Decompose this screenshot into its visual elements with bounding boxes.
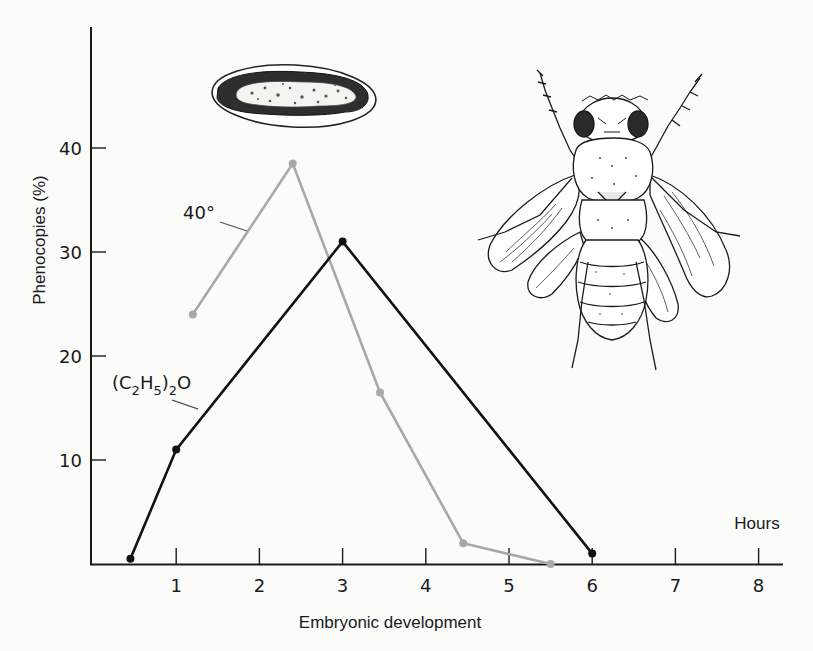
label-leader-line <box>172 400 198 409</box>
y-axis-label: Phenocopies (%) <box>30 175 49 304</box>
data-point <box>547 560 555 568</box>
x-tick-label: 4 <box>420 575 431 596</box>
data-point <box>588 550 596 558</box>
data-point <box>189 310 197 318</box>
x-tick-label: 1 <box>170 575 181 596</box>
data-point <box>339 238 347 246</box>
data-point <box>376 388 384 396</box>
fly-illustration <box>478 70 740 370</box>
y-tick-label: 10 <box>59 450 82 471</box>
phenocopy-chart: 10203040 12345678 Embryonic development … <box>0 0 813 651</box>
x-tick-label: 2 <box>254 575 265 596</box>
label-leader-line <box>220 222 247 231</box>
x-tick-label: 6 <box>586 575 597 596</box>
data-point <box>126 555 134 563</box>
x-axis-label: Embryonic development <box>299 613 482 632</box>
data-point <box>289 160 297 168</box>
y-ticks: 10203040 <box>59 138 106 471</box>
axes <box>90 27 783 565</box>
x-tick-label: 8 <box>753 575 764 596</box>
data-point <box>459 539 467 547</box>
svg-text:40°: 40° <box>183 202 215 223</box>
y-tick-label: 20 <box>59 346 82 367</box>
series-line <box>130 242 592 559</box>
y-tick-label: 40 <box>59 138 82 159</box>
x-unit-label: Hours <box>734 514 779 533</box>
x-tick-label: 5 <box>503 575 514 596</box>
x-tick-label: 3 <box>337 575 348 596</box>
data-point <box>172 446 180 454</box>
series-label-40deg: 40° <box>183 202 247 231</box>
x-ticks: 12345678 <box>170 548 764 596</box>
y-tick-label: 30 <box>59 242 82 263</box>
svg-text:(C2H5)2O: (C2H5)2O <box>112 372 191 398</box>
series-label-ether: (C2H5)2O <box>112 372 198 409</box>
x-tick-label: 7 <box>670 575 681 596</box>
egg-illustration <box>210 61 377 131</box>
